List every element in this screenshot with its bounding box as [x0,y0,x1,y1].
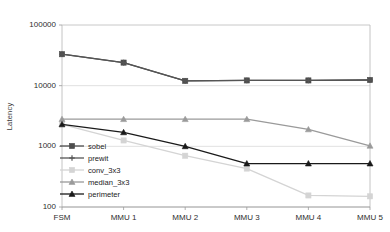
legend-label: conv_3x3 [88,166,121,175]
x-tick-label: MMU 2 [157,213,213,222]
x-tick-label: FSM [34,213,90,222]
legend-key-icon [59,164,85,176]
legend-item-perimeter[interactable]: perimeter [59,188,129,200]
x-tick-label: MMU 5 [342,213,390,222]
y-tick-label: 100 [12,202,56,211]
legend-key-icon [59,152,85,164]
legend-item-median_3x3[interactable]: median_3x3 [59,176,129,188]
legend-label: perimeter [88,190,120,199]
chart-legend: sobelprewitconv_3x3median_3x3perimeter [59,140,129,200]
series-prewit [59,51,373,83]
y-tick-label: 10000 [12,81,56,90]
chart-container: Latency 100100010000100000 FSMMMU 1MMU 2… [0,0,390,232]
legend-item-sobel[interactable]: sobel [59,140,129,152]
legend-key-icon [59,140,85,152]
legend-label: prewit [88,154,108,163]
series-sobel [59,52,372,84]
y-tick-label: 100000 [12,20,56,29]
x-tick-label: MMU 3 [219,213,275,222]
legend-item-conv_3x3[interactable]: conv_3x3 [59,164,129,176]
legend-key-icon [59,188,85,200]
x-tick-label: MMU 1 [96,213,152,222]
legend-label: median_3x3 [88,178,129,187]
y-tick-label: 1000 [12,141,56,150]
legend-item-prewit[interactable]: prewit [59,152,129,164]
legend-label: sobel [88,142,106,151]
legend-key-icon [59,176,85,188]
x-tick-label: MMU 4 [280,213,336,222]
